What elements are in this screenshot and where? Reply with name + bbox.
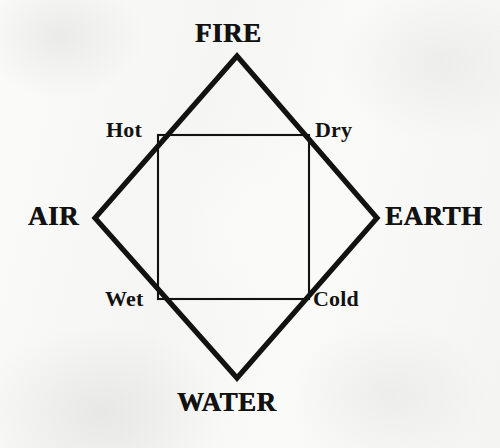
element-label-air: AIR (28, 203, 79, 230)
quality-label-dry: Dry (315, 119, 352, 141)
element-label-earth: EARTH (385, 203, 483, 230)
quality-label-cold: Cold (313, 288, 359, 310)
inner-square-shape (158, 135, 309, 299)
quality-label-wet: Wet (105, 288, 143, 310)
four-elements-diagram: FIRE AIR EARTH WATER Hot Dry Wet Cold (0, 0, 500, 448)
quality-label-hot: Hot (106, 119, 142, 141)
element-label-fire: FIRE (195, 20, 262, 47)
outer-diamond-shape (95, 56, 377, 378)
element-label-water: WATER (177, 389, 277, 416)
